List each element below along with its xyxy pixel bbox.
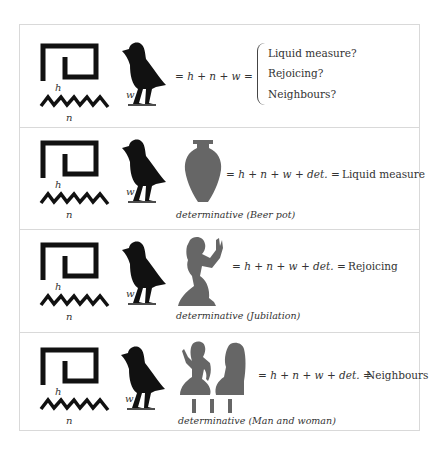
n-label: n	[66, 112, 72, 123]
hieroglyph-diagram: h n w = h + n + w = Liquid measure? Rejo…	[19, 24, 420, 431]
meaning-option-3: Neighbours?	[268, 88, 336, 100]
n-glyph-icon	[39, 396, 111, 412]
equation-text: = h + n + w + det. =	[258, 369, 372, 381]
determinative-caption: determinative (Man and woman)	[178, 415, 336, 426]
jubilation-figure-icon	[176, 236, 226, 306]
h-glyph-icon	[40, 140, 100, 180]
row-liquid-measure: h n w = h + n + w + det. = Liquid measur…	[20, 127, 419, 229]
meaning: Neighbours	[366, 369, 428, 381]
brace	[257, 43, 266, 105]
equation-text: = h + n + w + det. =	[226, 168, 340, 180]
equation: = h + n + w + det. =	[258, 369, 372, 381]
h-glyph-icon	[40, 242, 100, 282]
row-rejoicing: h n w = h + n + w + det. = Rejoicing det…	[20, 229, 419, 332]
equation: = h + n + w + det. =	[232, 260, 346, 272]
n-glyph-icon	[39, 292, 111, 308]
h-glyph-icon	[40, 347, 100, 387]
w-label: w	[125, 393, 134, 404]
meaning-option-2: Rejoicing?	[268, 67, 323, 79]
man-and-woman-icon	[178, 341, 254, 413]
n-label: n	[66, 415, 72, 426]
row-neighbours: h n w = h + n + w + det. = Neighbours de…	[20, 332, 419, 431]
h-label: h	[55, 179, 61, 190]
meaning-option-1: Liquid measure?	[268, 47, 357, 59]
determinative-caption: determinative (Jubilation)	[176, 310, 300, 321]
equation-text: = h + n + w + det. =	[232, 260, 346, 272]
n-label: n	[66, 311, 72, 322]
meaning: Liquid measure	[342, 168, 425, 180]
row-ambiguous: h n w = h + n + w = Liquid measure? Rejo…	[20, 25, 419, 127]
w-label: w	[126, 89, 135, 100]
h-label: h	[55, 281, 61, 292]
h-label: h	[55, 82, 61, 93]
w-label: w	[126, 288, 135, 299]
determinative-caption: determinative (Beer pot)	[176, 209, 295, 220]
equation: = h + n + w + det. =	[226, 168, 340, 180]
beer-pot-icon	[184, 140, 222, 202]
h-glyph-icon	[40, 43, 100, 83]
meaning: Rejoicing	[348, 260, 398, 272]
w-label: w	[126, 186, 135, 197]
n-label: n	[66, 209, 72, 220]
n-glyph-icon	[39, 190, 111, 206]
equation: = h + n + w =	[175, 70, 253, 82]
n-glyph-icon	[39, 93, 111, 109]
